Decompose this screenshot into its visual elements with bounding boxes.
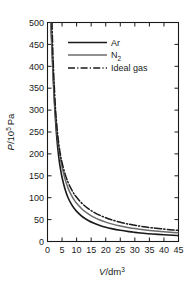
x-axis-scale: /dm [105,266,121,277]
y-tick-label: 450 [29,40,44,50]
y-tick-label: 100 [29,193,44,203]
x-tick-label: 15 [86,245,96,255]
y-tick-label: 350 [29,83,44,93]
x-tick-label: 10 [72,245,82,255]
y-tick-label: 0 [39,237,44,247]
y-tick-label: 250 [29,127,44,137]
x-tick-label: 45 [173,245,183,255]
x-tick-label: 30 [130,245,140,255]
x-tick-label: 40 [159,245,169,255]
x-tick-label: 0 [45,245,50,255]
legend-label-ideal-gas: Ideal gas [111,63,148,73]
chart-figure: 050100150200250300350400450500 051015202… [0,0,194,289]
x-axis-exponent: 3 [121,266,125,273]
x-tick-label: 35 [144,245,154,255]
y-tick-label: 300 [29,105,44,115]
pv-isotherm-chart: 050100150200250300350400450500 051015202… [0,0,194,289]
y-tick-label: 50 [34,215,44,225]
y-tick-label: 200 [29,149,44,159]
x-tick-label: 5 [60,245,65,255]
y-tick-label: 500 [29,18,44,28]
x-tick-label: 20 [101,245,111,255]
y-tick-label: 150 [29,171,44,181]
y-axis-scale: /10 [5,131,16,144]
y-axis-unit: Pa [5,113,16,125]
legend-label-ar: Ar [111,38,120,48]
legend-label-n2-subscript: 2 [118,55,122,62]
y-axis-exponent: 5 [5,127,12,131]
x-tick-label: 25 [115,245,125,255]
y-tick-label: 400 [29,62,44,72]
y-axis-title: P/105Pa [5,113,17,151]
